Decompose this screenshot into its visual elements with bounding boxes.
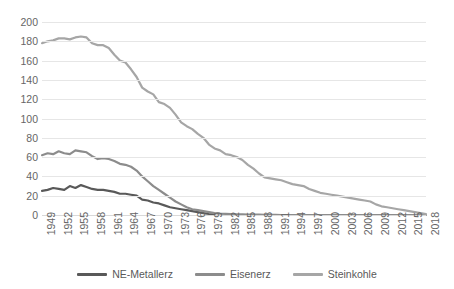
- y-tick-label: 160: [2, 56, 38, 66]
- y-tick-label: 60: [2, 152, 38, 162]
- legend-item[interactable]: Eisenerz: [195, 269, 271, 280]
- y-tick-label: 20: [2, 191, 38, 201]
- x-tick-label: 1955: [79, 212, 89, 258]
- x-tick-label: 2015: [413, 212, 423, 258]
- x-tick-label: 2012: [397, 212, 407, 258]
- legend-swatch-icon: [293, 273, 323, 276]
- legend-swatch-icon: [77, 273, 107, 276]
- plot-area: [42, 22, 426, 215]
- x-tick-label: 1973: [180, 212, 190, 258]
- gridline: [42, 119, 426, 120]
- x-tick-label: 1991: [280, 212, 290, 258]
- series-line: [42, 185, 215, 214]
- x-tick-label: 1997: [313, 212, 323, 258]
- gridline: [42, 41, 426, 42]
- x-tick-label: 1994: [296, 212, 306, 258]
- x-tick-label: 1949: [46, 212, 56, 258]
- gridline: [42, 176, 426, 177]
- gridline: [42, 157, 426, 158]
- x-tick-label: 1970: [163, 212, 173, 258]
- x-tick-label: 2018: [430, 212, 440, 258]
- x-tick-label: 1979: [213, 212, 223, 258]
- x-tick-label: 2006: [363, 212, 373, 258]
- x-tick-label: 1952: [63, 212, 73, 258]
- gridline: [42, 99, 426, 100]
- x-tick-label: 1967: [146, 212, 156, 258]
- x-tick-label: 2003: [347, 212, 357, 258]
- y-tick-label: 200: [2, 17, 38, 27]
- y-tick-label: 180: [2, 36, 38, 46]
- legend-label: Eisenerz: [230, 269, 271, 280]
- y-tick-label: 120: [2, 94, 38, 104]
- x-tick-label: 2000: [330, 212, 340, 258]
- series-line: [42, 36, 426, 214]
- x-tick-label: 1964: [129, 212, 139, 258]
- x-tick-label: 1988: [263, 212, 273, 258]
- legend-swatch-icon: [195, 273, 225, 276]
- y-tick-label: 40: [2, 171, 38, 181]
- x-tick-label: 1961: [113, 212, 123, 258]
- legend-item[interactable]: Steinkohle: [293, 269, 377, 280]
- x-tick-label: 1958: [96, 212, 106, 258]
- x-tick-label: 1976: [196, 212, 206, 258]
- gridline: [42, 80, 426, 81]
- gridline: [42, 196, 426, 197]
- y-tick-label: 0: [2, 210, 38, 220]
- legend-label: Steinkohle: [328, 269, 377, 280]
- y-tick-label: 80: [2, 133, 38, 143]
- gridline: [42, 138, 426, 139]
- legend-label: NE-Metallerz: [112, 269, 173, 280]
- y-tick-label: 140: [2, 75, 38, 85]
- y-axis: 200180160140120100806040200: [0, 0, 38, 240]
- y-tick-label: 100: [2, 114, 38, 124]
- x-tick-label: 1982: [230, 212, 240, 258]
- gridline: [42, 22, 426, 23]
- x-tick-label: 2009: [380, 212, 390, 258]
- x-tick-label: 1985: [246, 212, 256, 258]
- gridline: [42, 61, 426, 62]
- series-line: [42, 150, 426, 215]
- x-axis: 1949195219551958196119641967197019731976…: [42, 216, 426, 262]
- legend-item[interactable]: NE-Metallerz: [77, 269, 173, 280]
- chart-legend: NE-MetallerzEisenerzSteinkohle: [0, 264, 454, 284]
- line-chart: 200180160140120100806040200 194919521955…: [0, 0, 454, 289]
